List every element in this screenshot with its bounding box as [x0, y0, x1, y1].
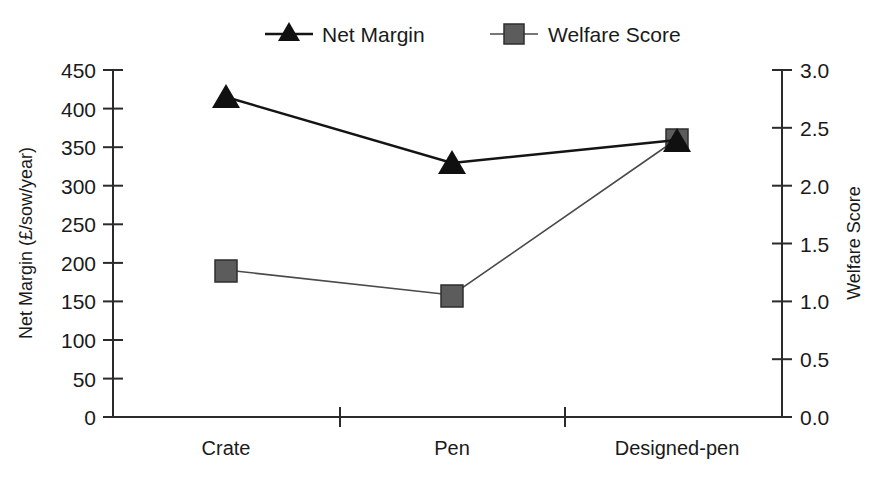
right-tick-label-2-0: 2.0 [800, 175, 829, 198]
left-axis: 450 400 350 300 250 200 150 100 50 0 Net… [16, 59, 123, 429]
left-tick-label-250: 250 [61, 213, 96, 236]
right-axis: 3.0 2.5 2.0 1.5 1.0 0.5 0.0 Welfare Scor… [772, 59, 864, 429]
left-tick-label-400: 400 [61, 98, 96, 121]
welfare-score-point-crate [215, 260, 237, 282]
right-tick-label-1-5: 1.5 [800, 233, 829, 256]
x-category-label-crate: Crate [202, 437, 251, 459]
left-axis-title: Net Margin (£/sow/year) [16, 147, 36, 339]
chart-legend: Net Margin Welfare Score [265, 22, 681, 46]
right-tick-label-0-5: 0.5 [800, 348, 829, 371]
left-tick-label-100: 100 [61, 329, 96, 352]
square-icon [504, 24, 524, 44]
series-net-margin [212, 84, 691, 174]
right-tick-label-3-0: 3.0 [800, 59, 829, 82]
triangle-icon [278, 22, 300, 41]
left-tick-label-0: 0 [84, 406, 96, 429]
legend-label-welfare-score: Welfare Score [548, 23, 681, 46]
x-category-label-designed-pen: Designed-pen [615, 437, 740, 459]
left-tick-label-150: 150 [61, 290, 96, 313]
chart-container: Net Margin Welfare Score 450 400 350 [0, 0, 885, 481]
right-tick-label-2-5: 2.5 [800, 117, 829, 140]
legend-entry-welfare-score: Welfare Score [490, 23, 681, 46]
right-tick-label-0-0: 0.0 [800, 406, 829, 429]
chart-canvas: Net Margin Welfare Score 450 400 350 [0, 0, 885, 481]
welfare-score-point-pen [441, 285, 463, 307]
left-tick-label-350: 350 [61, 136, 96, 159]
left-tick-label-200: 200 [61, 252, 96, 275]
net-margin-point-crate [212, 84, 240, 108]
x-category-label-pen: Pen [434, 437, 470, 459]
right-axis-title: Welfare Score [844, 186, 864, 300]
left-tick-label-300: 300 [61, 175, 96, 198]
left-tick-label-450: 450 [61, 59, 96, 82]
left-tick-label-50: 50 [73, 368, 96, 391]
right-tick-label-1-0: 1.0 [800, 290, 829, 313]
x-axis: Crate Pen Designed-pen [113, 407, 782, 459]
legend-entry-net-margin: Net Margin [265, 22, 425, 46]
legend-label-net-margin: Net Margin [322, 23, 425, 46]
